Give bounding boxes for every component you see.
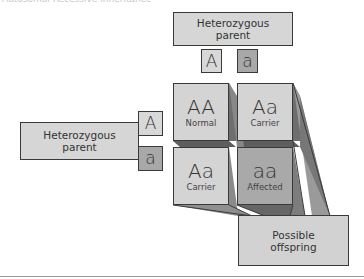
left-allele-recessive: a — [138, 146, 163, 171]
punnett-cell-Aa-top: Aa Carrier — [237, 83, 293, 141]
left-parent-label-line2: parent — [62, 141, 96, 153]
bottom-divider — [0, 276, 364, 277]
left-allele-dominant: A — [138, 111, 163, 136]
punnett-cell-aa: aa Affected — [237, 147, 293, 205]
offspring-box: Possible offspring — [238, 215, 349, 266]
offspring-label-line1: Possible — [272, 229, 314, 241]
punnett-cell-Aa-bottom: Aa Carrier — [173, 147, 229, 205]
left-parent-box: Heterozygous parent — [20, 122, 139, 160]
top-allele-recessive: a — [237, 49, 258, 73]
offspring-label-line2: offspring — [270, 241, 316, 253]
left-parent-label-line1: Heterozygous — [43, 129, 115, 141]
top-allele-dominant: A — [201, 49, 222, 73]
top-parent-box: Heterozygous parent — [173, 12, 293, 46]
top-parent-label-line1: Heterozygous — [197, 17, 269, 29]
punnett-cell-AA: AA Normal — [173, 83, 229, 141]
top-parent-label-line2: parent — [216, 29, 250, 41]
